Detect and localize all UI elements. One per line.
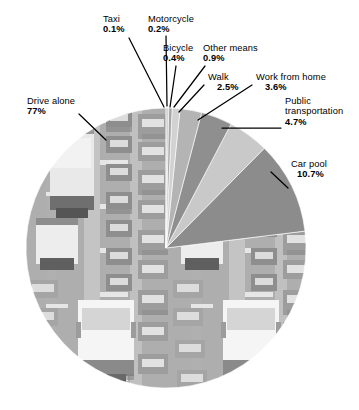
label-drive-alone-name: Drive alone <box>27 96 75 106</box>
label-taxi-name: Taxi <box>103 14 125 24</box>
label-drive-alone: Drive alone 77% <box>27 96 75 117</box>
label-car-pool-name: Car pool <box>291 159 327 169</box>
pie-chart-figure: Taxi 0.1% Motorcycle 0.2% Bicycle 0.4% O… <box>0 0 359 410</box>
label-public-transportation-percent: 4.7% <box>285 117 343 127</box>
label-bicycle-name: Bicycle <box>163 43 193 53</box>
label-public-transportation: Public transportation 4.7% <box>285 96 343 127</box>
label-walk: Walk 2.5% <box>208 72 239 93</box>
label-drive-alone-percent: 77% <box>27 106 75 116</box>
leader-line-taxi <box>129 38 164 107</box>
label-work-from-home-percent: 3.6% <box>265 82 326 92</box>
label-car-pool-percent: 10.7% <box>297 169 327 179</box>
label-other-means-name: Other means <box>203 43 258 53</box>
leader-line-bicycle <box>170 66 176 107</box>
label-bicycle: Bicycle 0.4% <box>163 43 193 64</box>
pie-slices <box>26 108 306 388</box>
label-bicycle-percent: 0.4% <box>163 53 193 63</box>
label-work-from-home-name: Work from home <box>256 72 326 82</box>
leader-line-walk <box>179 85 204 112</box>
label-motorcycle-name: Motorcycle <box>148 14 194 24</box>
label-car-pool: Car pool 10.7% <box>291 159 327 180</box>
label-taxi-percent: 0.1% <box>103 24 125 34</box>
label-public-transportation-name-line1: Public <box>285 96 343 106</box>
label-walk-name: Walk <box>208 72 239 82</box>
label-public-transportation-name-line2: transportation <box>285 106 343 116</box>
label-other-means: Other means 0.9% <box>203 43 258 64</box>
label-motorcycle: Motorcycle 0.2% <box>148 14 194 35</box>
label-other-means-percent: 0.9% <box>203 53 258 63</box>
label-work-from-home: Work from home 3.6% <box>256 72 326 93</box>
label-taxi: Taxi 0.1% <box>103 14 125 35</box>
label-motorcycle-percent: 0.2% <box>148 24 194 34</box>
label-walk-percent: 2.5% <box>217 82 239 92</box>
